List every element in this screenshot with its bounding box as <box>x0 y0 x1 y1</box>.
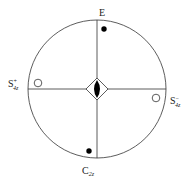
label-s4z-minus: S−4z <box>170 95 181 108</box>
label-e: E <box>99 7 105 18</box>
marker-s4z-minus-open-circle <box>152 94 160 102</box>
marker-e-filled-dot <box>101 26 106 31</box>
label-s4z-plus: S+4z <box>8 78 19 91</box>
stereogram-diagram: E S+4z S−4z C2z <box>0 0 193 184</box>
label-c2z: C2z <box>82 165 95 177</box>
s4-axis-symbol <box>86 78 108 100</box>
marker-c2z-filled-dot <box>86 148 91 153</box>
marker-s4z-plus-open-circle <box>34 79 42 87</box>
